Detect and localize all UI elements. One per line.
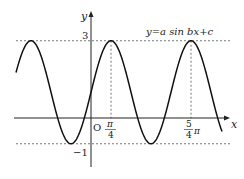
sine-graph: y x O 3 −1 π 4 5 4 π y=a sin bx+c bbox=[0, 0, 244, 179]
x-tick-5pi-over-4-pi: π bbox=[193, 126, 201, 136]
origin-label: O bbox=[93, 122, 101, 133]
x-tick-pi-over-4-num: π bbox=[106, 119, 114, 129]
y-tick-3: 3 bbox=[82, 30, 88, 41]
y-axis-arrow-icon bbox=[89, 11, 94, 17]
x-tick-5pi-over-4-den: 4 bbox=[186, 130, 192, 140]
x-axis-label: x bbox=[231, 118, 238, 131]
y-tick-neg1: −1 bbox=[73, 147, 88, 158]
x-axis-arrow-icon bbox=[224, 116, 230, 121]
y-axis-label: y bbox=[80, 10, 88, 23]
x-tick-5pi-over-4-num: 5 bbox=[186, 119, 192, 129]
x-tick-pi-over-4-den: 4 bbox=[108, 130, 114, 140]
equation-label: y=a sin bx+c bbox=[145, 26, 214, 37]
